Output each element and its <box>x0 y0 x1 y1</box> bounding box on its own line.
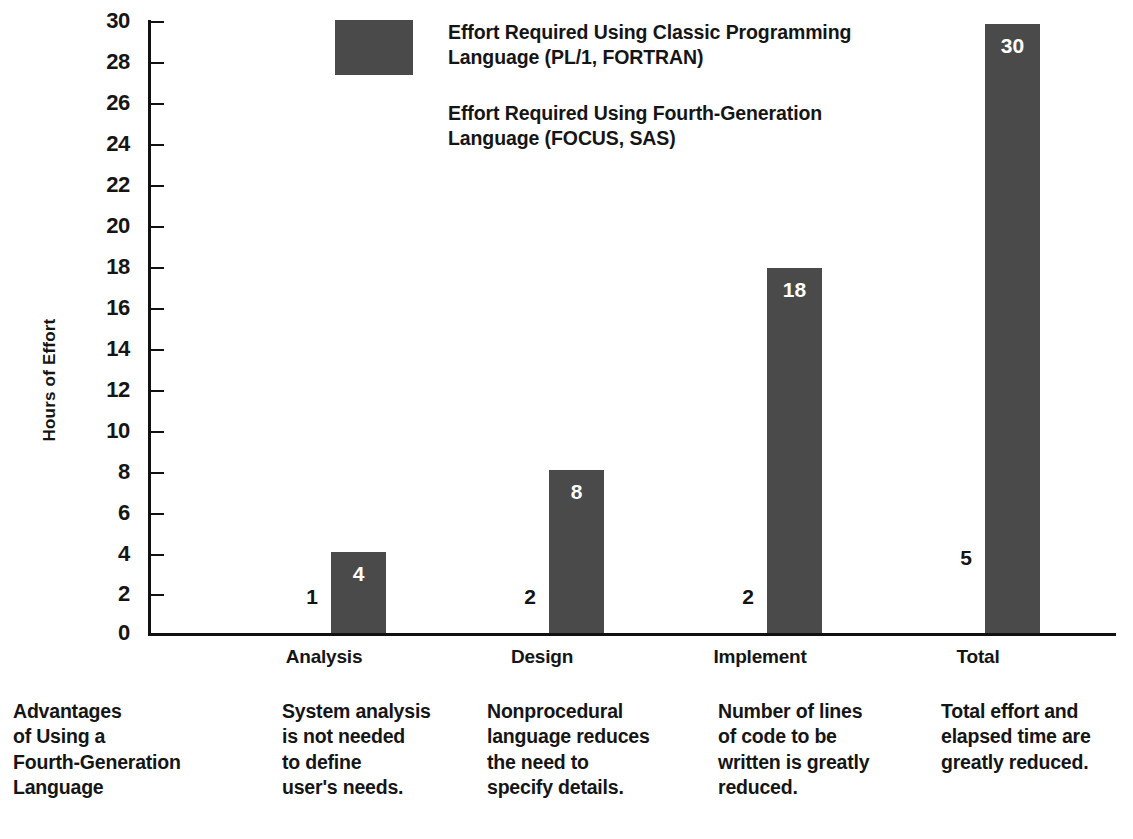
y-tick-label-16: 16 <box>84 297 130 319</box>
y-tick-label-30: 30 <box>84 10 130 32</box>
note-implement: Number of lines of code to be written is… <box>718 699 933 800</box>
gen4-value-analysis: 1 <box>260 586 318 607</box>
y-axis-line <box>148 20 151 636</box>
bar-implement[interactable] <box>767 268 822 633</box>
y-tick-6 <box>151 513 164 515</box>
note-analysis: System analysis is not needed to define … <box>282 699 492 800</box>
note-total: Total effort and elapsed time are greatl… <box>941 699 1133 775</box>
y-tick-label-20: 20 <box>84 215 130 237</box>
note-advantages-heading: Advantages of Using a Fourth-Generation … <box>13 699 273 800</box>
category-label-analysis: Analysis <box>262 646 386 668</box>
bar-value-implement: 18 <box>767 279 822 300</box>
y-axis-title: Hours of Effort <box>40 290 60 470</box>
y-tick-12 <box>151 390 164 392</box>
y-tick-2 <box>151 594 164 596</box>
y-tick-16 <box>151 308 164 310</box>
y-tick-30 <box>151 21 164 23</box>
y-tick-label-0: 0 <box>84 622 130 644</box>
y-tick-label-26: 26 <box>84 92 130 114</box>
y-tick-4 <box>151 554 164 556</box>
legend-label-fourth-generation: Effort Required Using Fourth-Generation … <box>448 101 822 151</box>
category-label-design: Design <box>480 646 604 668</box>
y-tick-18 <box>151 267 164 269</box>
legend-label-classic: Effort Required Using Classic Programmin… <box>448 20 851 70</box>
y-tick-label-24: 24 <box>84 133 130 155</box>
note-design: Nonprocedural language reduces the need … <box>487 699 712 800</box>
bar-value-design: 8 <box>549 481 604 502</box>
y-tick-label-2: 2 <box>84 583 130 605</box>
y-tick-label-14: 14 <box>84 338 130 360</box>
category-label-implement: Implement <box>698 646 822 668</box>
y-tick-10 <box>151 431 164 433</box>
advantages-notes-row: Advantages of Using a Fourth-Generation … <box>0 699 1133 839</box>
y-tick-label-6: 6 <box>84 502 130 524</box>
bar-total[interactable] <box>985 24 1040 633</box>
y-tick-label-12: 12 <box>84 379 130 401</box>
x-axis-line <box>148 633 1116 636</box>
y-tick-8 <box>151 472 164 474</box>
chart-area: Hours of Effort 30 28 26 24 22 20 18 16 … <box>0 0 1133 690</box>
gen4-value-design: 2 <box>478 586 536 607</box>
y-tick-28 <box>151 62 164 64</box>
gen4-value-total: 5 <box>914 547 972 568</box>
y-tick-label-10: 10 <box>84 420 130 442</box>
y-tick-label-28: 28 <box>84 51 130 73</box>
y-tick-22 <box>151 185 164 187</box>
y-tick-0 <box>151 633 164 635</box>
y-tick-label-18: 18 <box>84 256 130 278</box>
y-tick-14 <box>151 349 164 351</box>
legend-swatch-classic <box>335 20 413 75</box>
bar-value-analysis: 4 <box>331 563 386 584</box>
y-tick-26 <box>151 103 164 105</box>
y-tick-20 <box>151 226 164 228</box>
y-tick-24 <box>151 144 164 146</box>
category-label-total: Total <box>916 646 1040 668</box>
bar-value-total: 30 <box>985 35 1040 56</box>
y-tick-label-4: 4 <box>84 543 130 565</box>
y-tick-label-22: 22 <box>84 174 130 196</box>
gen4-value-implement: 2 <box>696 586 754 607</box>
y-tick-label-8: 8 <box>84 461 130 483</box>
